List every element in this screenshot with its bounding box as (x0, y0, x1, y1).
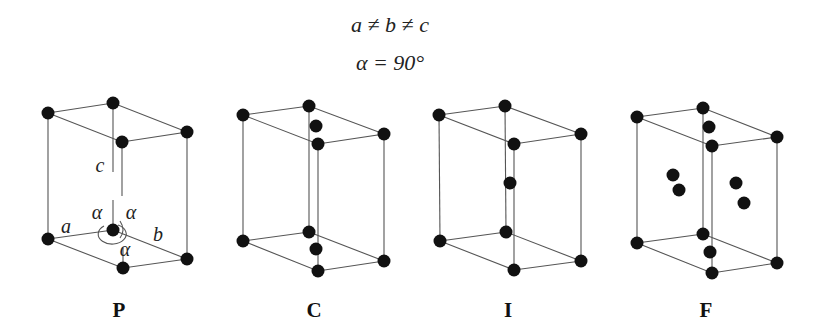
lattice-diagram: c a b α α α P (0, 0, 824, 334)
atom-corner (771, 131, 784, 144)
atom-corner (631, 237, 644, 250)
atom-corner (631, 111, 644, 124)
panel-face-centered: F (631, 102, 784, 323)
atom-face-center (704, 246, 717, 259)
atom-corner (237, 235, 250, 248)
atom-corner (303, 226, 316, 239)
axis-label-c: c (96, 154, 105, 176)
atom-corner (508, 264, 521, 277)
atom-corner (116, 136, 129, 149)
atom-body-center (504, 177, 517, 190)
atom-corner (107, 97, 120, 110)
atom-face-center (673, 184, 686, 197)
atoms (42, 97, 194, 275)
angle-label-alpha-1: α (92, 201, 103, 223)
cell-edges (48, 103, 187, 268)
atom-corner (312, 138, 325, 151)
atom-corner (575, 128, 588, 141)
atoms (433, 100, 588, 277)
atom-corner (117, 262, 130, 275)
atom-corner (181, 126, 194, 139)
angle-label-alpha-2: α (126, 201, 137, 223)
lattice-label-i: I (504, 298, 512, 322)
axis-label-b: b (153, 223, 163, 245)
atom-base-center (310, 120, 323, 133)
atom-corner (433, 109, 446, 122)
lattice-label-p: P (113, 298, 126, 322)
atom-corner (378, 128, 391, 141)
atoms (631, 102, 784, 280)
atom-corner (303, 100, 316, 113)
panel-base-centered: C (237, 100, 391, 323)
atom-corner (181, 253, 194, 266)
panel-body-centered: I (433, 100, 588, 323)
atom-face-center (667, 169, 680, 182)
atom-corner (499, 100, 512, 113)
atom-corner (771, 257, 784, 270)
axis-label-a: a (61, 215, 71, 237)
atom-corner (706, 140, 719, 153)
atom-corner (500, 226, 513, 239)
lattice-label-f: F (700, 298, 713, 322)
atom-corner (312, 265, 325, 278)
atom-corner (508, 138, 521, 151)
atom-corner (697, 228, 710, 241)
lattice-label-c: C (306, 298, 321, 322)
atom-face-center (738, 197, 751, 210)
atom-corner (42, 233, 55, 246)
atom-corner (378, 255, 391, 268)
atom-base-center (310, 243, 323, 256)
panel-primitive: c a b α α α P (42, 97, 194, 323)
atom-corner (697, 102, 710, 115)
angle-label-alpha-3: α (120, 238, 131, 260)
atom-face-center (730, 177, 743, 190)
atom-face-center (703, 121, 716, 134)
atom-corner (706, 267, 719, 280)
atom-corner (107, 224, 120, 237)
atom-corner (434, 235, 447, 248)
atom-corner (575, 255, 588, 268)
atoms (237, 100, 391, 278)
atom-corner (237, 109, 250, 122)
atom-corner (42, 107, 55, 120)
